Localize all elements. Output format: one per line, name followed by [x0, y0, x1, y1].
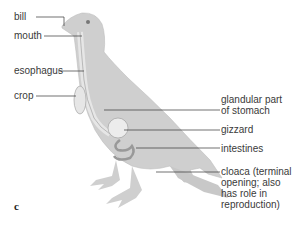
label-line: has role in [221, 188, 292, 199]
eye [86, 20, 90, 24]
label-line: of stomach [221, 105, 282, 116]
gizzard-organ [108, 118, 128, 138]
label-intestines: intestines [221, 143, 263, 154]
panel-label: c [14, 200, 19, 212]
label-line: opening; also [221, 177, 292, 188]
label-gizzard: gizzard [221, 124, 253, 135]
crop-organ [74, 86, 86, 114]
pigeon-leg-right [106, 166, 142, 208]
label-glandular-stomach: glandular part of stomach [221, 94, 282, 116]
label-line: glandular part [221, 94, 282, 105]
label-cloaca: cloaca (terminal opening; also has role … [221, 166, 292, 210]
label-bill: bill [14, 11, 26, 22]
label-line: reproduction) [221, 199, 292, 210]
pigeon-tail [170, 166, 228, 198]
label-mouth: mouth [14, 30, 42, 41]
label-esophagus: esophagus [14, 65, 63, 76]
label-line: cloaca (terminal [221, 166, 292, 177]
pigeon-leg-left [90, 160, 120, 190]
label-crop: crop [14, 90, 33, 101]
